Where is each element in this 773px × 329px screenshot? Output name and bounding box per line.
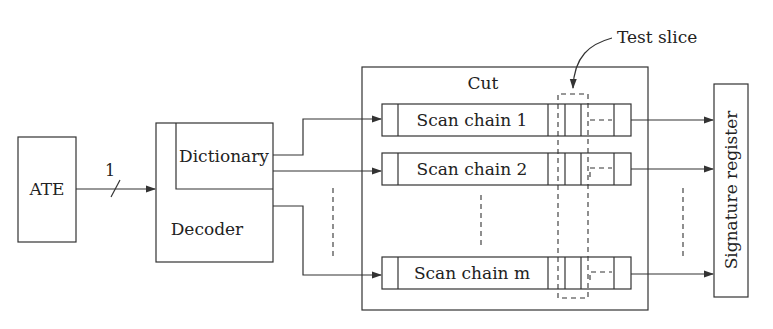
decoder-outputs xyxy=(273,119,381,275)
block-diagram: ATE 1 Dictionary Decoder Cut Scan chain … xyxy=(0,0,773,329)
signature-register: Signature register xyxy=(714,84,748,297)
chain-outputs xyxy=(631,120,713,274)
ate-block: ATE xyxy=(18,137,76,242)
signature-register-label: Signature register xyxy=(721,110,741,270)
ate-label: ATE xyxy=(28,179,64,199)
scan-chain-m-label: Scan chain m xyxy=(414,263,530,283)
scan-chain-1: Scan chain 1 xyxy=(382,104,631,136)
ate-decoder-link: 1 xyxy=(76,161,155,197)
cut-label: Cut xyxy=(468,73,499,93)
decoder-block: Dictionary Decoder xyxy=(156,123,273,262)
scan-chain-1-label: Scan chain 1 xyxy=(417,110,528,130)
dictionary-label: Dictionary xyxy=(179,146,269,166)
scan-chain-m: Scan chain m xyxy=(382,257,631,289)
test-slice-label: Test slice xyxy=(617,27,697,47)
bus-width-label: 1 xyxy=(105,161,115,180)
scan-chain-2: Scan chain 2 xyxy=(382,153,631,185)
decoder-label: Decoder xyxy=(171,219,244,239)
scan-chain-2-label: Scan chain 2 xyxy=(417,159,528,179)
